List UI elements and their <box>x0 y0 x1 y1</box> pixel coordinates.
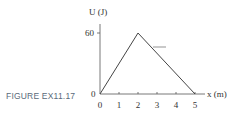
potential-energy-chart: U (J) 60 0 x (m) 0 1 2 3 4 5 <box>0 0 240 115</box>
svg-text:5: 5 <box>193 100 198 110</box>
y-axis-label: U (J) <box>89 7 107 17</box>
svg-text:3: 3 <box>155 100 160 110</box>
ytick-60: 60 <box>85 28 95 38</box>
svg-text:0: 0 <box>98 100 103 110</box>
svg-text:1: 1 <box>117 100 122 110</box>
x-axis-label: x (m) <box>207 89 227 99</box>
svg-text:2: 2 <box>136 100 141 110</box>
xtick-labels: 0 1 2 3 4 5 <box>98 100 198 110</box>
svg-text:4: 4 <box>174 100 179 110</box>
ytick-0: 0 <box>91 89 96 99</box>
data-line <box>100 33 195 94</box>
